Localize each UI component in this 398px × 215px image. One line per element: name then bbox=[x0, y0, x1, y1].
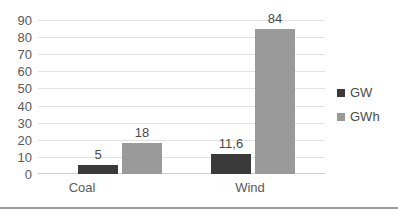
bar-chart-figure: 90 80 70 60 50 40 30 20 10 0 5 18 bbox=[0, 0, 398, 215]
chart-legend: GW GWh bbox=[337, 86, 380, 123]
bar-value-label: 11,6 bbox=[219, 137, 243, 150]
bar-wind-gw[interactable] bbox=[211, 154, 251, 174]
bar-slot-coal-gwh: 18 bbox=[122, 20, 162, 174]
bar-coal-gw[interactable] bbox=[78, 165, 118, 174]
legend-item-gwh[interactable]: GWh bbox=[337, 110, 380, 123]
legend-swatch-icon bbox=[337, 89, 345, 97]
y-axis-tick-label: 90 bbox=[2, 14, 32, 27]
y-axis-tick-label: 0 bbox=[2, 168, 32, 181]
legend-label: GW bbox=[350, 86, 372, 99]
bar-wind-gwh[interactable] bbox=[255, 29, 295, 174]
y-axis-tick-label: 30 bbox=[2, 116, 32, 129]
y-axis-tick-label: 20 bbox=[2, 133, 32, 146]
plot-area: 5 18 11,6 84 bbox=[38, 20, 325, 174]
legend-swatch-icon bbox=[337, 113, 345, 121]
bar-group-coal: 5 18 bbox=[60, 20, 180, 174]
x-axis-category-label-wind: Wind bbox=[190, 180, 310, 195]
bar-group-wind: 11,6 84 bbox=[193, 20, 313, 174]
y-axis-tick-label: 60 bbox=[2, 65, 32, 78]
y-axis-tick-label: 70 bbox=[2, 48, 32, 61]
legend-label: GWh bbox=[350, 110, 380, 123]
y-axis-tick-label: 80 bbox=[2, 31, 32, 44]
legend-item-gw[interactable]: GW bbox=[337, 86, 380, 99]
bar-slot-wind-gwh: 84 bbox=[255, 20, 295, 174]
bar-slot-wind-gw: 11,6 bbox=[211, 20, 251, 174]
bar-value-label: 18 bbox=[135, 126, 149, 139]
y-axis-tick-label: 50 bbox=[2, 82, 32, 95]
bottom-divider bbox=[0, 207, 398, 209]
bar-slot-coal-gw: 5 bbox=[78, 20, 118, 174]
x-axis-category-label-coal: Coal bbox=[22, 180, 142, 195]
bar-value-label: 5 bbox=[94, 148, 101, 161]
y-axis-tick-label: 10 bbox=[2, 150, 32, 163]
bar-value-label: 84 bbox=[268, 12, 282, 25]
y-axis-tick-label: 40 bbox=[2, 99, 32, 112]
bar-coal-gwh[interactable] bbox=[122, 143, 162, 174]
